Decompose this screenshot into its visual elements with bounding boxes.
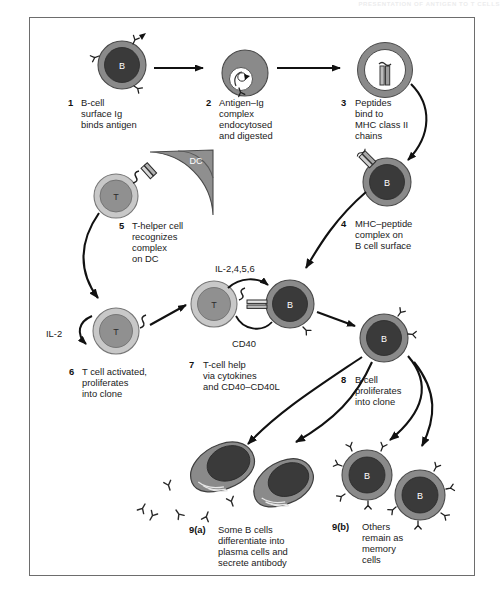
step-5-cell: T <box>94 163 157 218</box>
dc-label: DC <box>190 156 203 166</box>
step-7-line-0: T-cell help <box>203 359 246 370</box>
step-9b-number: 9(b) <box>332 521 349 532</box>
step-6-number: 6 <box>69 366 74 377</box>
arrow-3-to-4 <box>408 84 426 160</box>
step-4-label: 4 MHC–peptide complex on B cell surface <box>341 218 412 251</box>
step-8-number: 8 <box>341 374 346 385</box>
memory-cell-2-label: B <box>417 491 423 501</box>
step-8-line-1: proliferates <box>355 385 402 396</box>
step-6-cell-label: T <box>113 327 119 337</box>
step-4-number: 4 <box>341 218 347 229</box>
step-2-cell <box>222 50 268 97</box>
step-8-line-0: B cell <box>355 374 378 385</box>
step-9b-label: 9(b) Others remain as memory cells <box>332 521 403 565</box>
arrow-8-to-9b-right <box>414 362 432 446</box>
arrow-6-to-7 <box>150 305 186 325</box>
step-6-cell: T <box>93 308 146 354</box>
step-2-line-1: complex <box>219 108 254 119</box>
step-9a-line-1: differentiate into <box>218 535 285 546</box>
step-9b-line-3: cells <box>362 554 381 565</box>
step-5-number: 5 <box>119 220 124 231</box>
step-7-conjugate: T B CD40 IL-2,4,5,6 <box>191 263 314 349</box>
step-4-line-1: complex on <box>355 229 403 240</box>
memory-cell-2: B <box>388 462 455 529</box>
step-7-t-cell-label: T <box>211 300 217 310</box>
step-2-number: 2 <box>206 97 211 108</box>
step-5-line-3: on DC <box>132 253 159 264</box>
figure-page: PRESENTATION OF ANTIGEN TO T CELLS B <box>0 0 503 604</box>
step-1-cell: B <box>90 33 146 93</box>
step-3-line-0: Peptides <box>355 97 392 108</box>
il2-autocrine-loop: IL-2 <box>46 316 92 344</box>
step-6-line-2: into clone <box>82 388 122 399</box>
step-8-line-2: into clone <box>355 396 395 407</box>
step-1-cell-label: B <box>119 61 125 71</box>
il2-label: IL-2 <box>46 328 62 339</box>
step-7-label: 7 T-cell help via cytokines and CD40–CD4… <box>189 359 280 392</box>
arrow-5-to-6 <box>84 213 100 298</box>
step-2-line-0: Antigen–Ig <box>219 97 264 108</box>
step-9b-line-2: memory <box>362 543 396 554</box>
step-9b-memory-cells: B B <box>333 442 454 529</box>
step-9a-number: 9(a) <box>189 524 206 535</box>
step-4-cell: B <box>356 148 411 206</box>
memory-cell-1: B <box>333 442 392 509</box>
step-9a-line-2: plasma cells and <box>218 546 288 557</box>
step-6-line-1: proliferates <box>82 377 129 388</box>
cd40-label: CD40 <box>232 338 256 349</box>
memory-cell-1-label: B <box>364 471 370 481</box>
arrow-7-to-8 <box>317 312 355 326</box>
step-9a-line-0: Some B cells <box>218 524 273 535</box>
step-1-line-1: surface Ig <box>81 108 122 119</box>
step-9b-line-0: Others <box>362 521 390 532</box>
step-3-line-1: bind to <box>355 108 383 119</box>
step-4-cell-label: B <box>384 178 390 188</box>
step-9b-line-1: remain as <box>362 532 403 543</box>
step-7-line-2: and CD40–CD40L <box>203 381 280 392</box>
step-1-line-2: binds antigen <box>81 119 137 130</box>
step-7-line-1: via cytokines <box>203 370 257 381</box>
step-5-line-0: T-helper cell <box>132 220 183 231</box>
step-5-line-2: complex <box>132 242 167 253</box>
step-2-line-2: endocytosed <box>219 119 272 130</box>
cytokines-label: IL-2,4,5,6 <box>215 263 255 274</box>
step-3-number: 3 <box>341 97 346 108</box>
step-6-label: 6 T cell activated, proliferates into cl… <box>69 366 147 399</box>
step-3-line-3: chains <box>355 130 382 141</box>
step-1-label: 1 B-cell surface Ig binds antigen <box>68 97 137 130</box>
step-5-cell-label: T <box>113 192 119 202</box>
step-4-line-0: MHC–peptide <box>355 218 412 229</box>
step-7-number: 7 <box>189 359 194 370</box>
step-1-line-0: B-cell <box>81 97 104 108</box>
arrow-8-to-9a-left <box>248 357 362 444</box>
step-9a-label: 9(a) Some B cells differentiate into pla… <box>189 524 288 568</box>
step-9a-line-3: secrete antibody <box>218 557 287 568</box>
step-8-label: 8 B cell proliferates into clone <box>341 374 402 407</box>
immune-response-diagram: B 1 B-cell surface Ig binds antigen 2 An <box>0 0 503 604</box>
step-3-label: 3 Peptides bind to MHC class II chains <box>341 97 408 141</box>
step-9a-plasma-cells <box>137 434 321 522</box>
step-8-cell: B <box>360 308 416 362</box>
step-7-b-cell-label: B <box>287 300 293 310</box>
step-6-line-0: T cell activated, <box>82 366 147 377</box>
step-3-line-2: MHC class II <box>355 119 408 130</box>
step-2-label: 2 Antigen–Ig complex endocytosed and dig… <box>206 97 273 141</box>
dendritic-cell: DC <box>150 150 213 215</box>
step-5-line-1: recognizes <box>132 231 178 242</box>
step-8-cell-label: B <box>381 334 387 344</box>
step-4-line-2: B cell surface <box>355 240 411 251</box>
step-3-cell <box>358 43 413 98</box>
step-1-number: 1 <box>68 97 73 108</box>
step-5-label: 5 T-helper cell recognizes complex on DC <box>119 220 183 264</box>
step-2-line-3: and digested <box>219 130 273 141</box>
